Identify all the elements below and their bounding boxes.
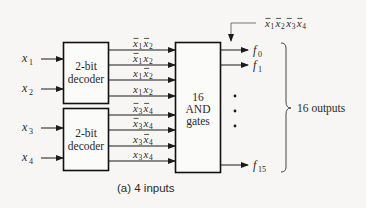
literal: x2 [143, 83, 154, 97]
svg-text:x: x [21, 81, 28, 95]
svg-text:1: 1 [258, 65, 262, 74]
svg-text:decoder: decoder [68, 140, 105, 152]
literal: x2 [275, 17, 286, 31]
decoder-output-label: x3x4 [132, 133, 153, 147]
literal: x2 [143, 37, 154, 51]
input-arrows [41, 59, 63, 158]
svg-text:4: 4 [149, 138, 153, 147]
literal: x3 [132, 117, 143, 131]
literal: x3 [132, 148, 143, 162]
svg-text:4: 4 [302, 22, 306, 31]
svg-text:2-bit: 2-bit [75, 127, 98, 139]
decoder-output-label: x3x4 [132, 148, 153, 162]
output-label-f15: f 15 [253, 158, 266, 174]
outputs-brace [281, 43, 291, 172]
svg-text:3: 3 [139, 107, 143, 116]
svg-text:4: 4 [29, 157, 33, 166]
svg-text:3: 3 [29, 127, 33, 136]
output-arrows [220, 50, 248, 165]
literal: x4 [296, 17, 307, 31]
svg-text:x: x [21, 120, 28, 134]
svg-text:1: 1 [139, 42, 143, 51]
literal: x2 [143, 67, 154, 81]
literal: x3 [132, 102, 143, 116]
svg-text:x: x [143, 117, 149, 129]
svg-text:1: 1 [139, 57, 143, 66]
svg-text:3: 3 [139, 122, 143, 131]
svg-text:1: 1 [139, 88, 143, 97]
literal: x1 [132, 67, 143, 81]
svg-text:3: 3 [292, 22, 296, 31]
decoder-output-label: x1x2 [132, 67, 153, 81]
svg-text:2-bit: 2-bit [75, 60, 98, 72]
literal: x2 [143, 52, 154, 66]
output-label-f1: f 1 [253, 58, 262, 74]
decoder-output-label: x1x2 [132, 52, 153, 66]
svg-text:x: x [132, 83, 138, 95]
svg-text:4: 4 [149, 153, 153, 162]
and-gates-block: 16 AND gates [176, 43, 221, 173]
literal: x4 [143, 148, 154, 162]
output-label-f0: f 0 [253, 43, 262, 59]
svg-text:1: 1 [271, 22, 275, 31]
svg-text:2: 2 [149, 88, 153, 97]
f0-minterm-label: x1x2x3x4 [264, 17, 306, 31]
input-label-x3: x 3 [21, 120, 33, 136]
svg-text:x: x [143, 83, 149, 95]
decoder-output-label: x1x2 [132, 83, 153, 97]
svg-text:4: 4 [149, 122, 153, 131]
ellipsis-dots [234, 95, 237, 128]
svg-text:x: x [132, 133, 138, 145]
decoder-block-upper: 2-bit decoder [64, 43, 109, 104]
svg-text:x: x [132, 148, 138, 160]
decoder-output-label: x3x4 [132, 117, 153, 131]
decoder-output-label: x3x4 [132, 102, 153, 116]
decoder-output-label: x1x2 [132, 37, 153, 51]
svg-text:AND: AND [186, 103, 211, 115]
literal: x1 [132, 52, 143, 66]
literal: x1 [132, 83, 143, 97]
svg-text:2: 2 [149, 57, 153, 66]
input-label-x4: x 4 [21, 150, 33, 166]
svg-text:1: 1 [139, 72, 143, 81]
decoder-tree-diagram: x 1 x 2 x 3 x 4 2-bit decoder 2-bit deco… [0, 0, 366, 208]
svg-text:gates: gates [186, 115, 210, 128]
brace-label: 16 outputs [297, 102, 346, 115]
svg-text:3: 3 [139, 138, 143, 147]
svg-text:x: x [21, 150, 28, 164]
literal: x4 [143, 117, 154, 131]
literal: x1 [264, 17, 275, 31]
literal: x3 [132, 133, 143, 147]
minterm-labels: x1x2x1x2x1x2x1x2x3x4x3x4x3x4x3x4 [132, 37, 153, 162]
svg-text:2: 2 [29, 88, 33, 97]
svg-text:2: 2 [281, 22, 285, 31]
svg-text:x: x [21, 51, 28, 65]
svg-text:x: x [132, 67, 138, 79]
literal: x3 [285, 17, 296, 31]
svg-text:15: 15 [258, 165, 266, 174]
svg-text:2: 2 [149, 42, 153, 51]
literal: x1 [132, 37, 143, 51]
svg-text:1: 1 [29, 58, 33, 67]
svg-text:x: x [143, 52, 149, 64]
f0-annotation: x1x2x3x4 [231, 17, 306, 41]
input-label-x2: x 2 [21, 81, 33, 97]
svg-text:3: 3 [139, 153, 143, 162]
svg-text:x: x [143, 148, 149, 160]
figure-caption: (a) 4 inputs [117, 182, 175, 194]
svg-text:2: 2 [149, 72, 153, 81]
svg-text:decoder: decoder [68, 73, 105, 85]
literal: x4 [143, 133, 154, 147]
input-label-x1: x 1 [21, 51, 33, 67]
svg-text:16: 16 [192, 91, 204, 103]
decoder-block-lower: 2-bit decoder [64, 109, 109, 171]
svg-text:4: 4 [149, 107, 153, 116]
svg-text:0: 0 [258, 50, 262, 59]
literal: x4 [143, 102, 154, 116]
